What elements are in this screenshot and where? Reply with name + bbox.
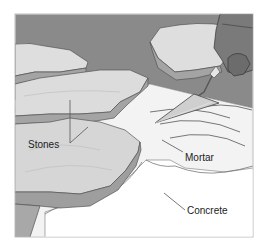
label-concrete: Concrete — [187, 205, 228, 216]
label-stones: Stones — [28, 139, 59, 150]
stone-laying-illustration: Stones Mortar Concrete — [0, 0, 263, 252]
label-mortar: Mortar — [185, 152, 215, 163]
